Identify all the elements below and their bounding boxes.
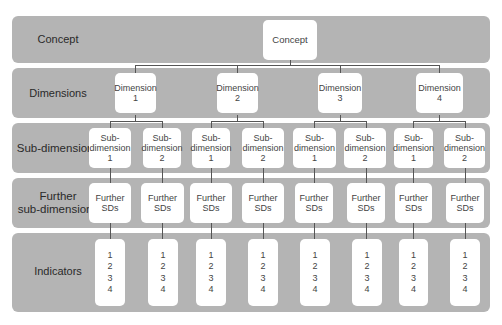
connector	[211, 121, 263, 122]
further-sd-line: SDs	[456, 203, 473, 213]
indicator-item: 4	[160, 284, 165, 296]
indicator-box: 1 2 3 4	[399, 239, 428, 306]
indicator-item: 4	[208, 284, 213, 296]
subdimension-line: Sub-	[152, 133, 171, 143]
dimension-box: Dimension 4	[416, 73, 463, 113]
subdimension-box: Sub- dimension 1	[89, 128, 131, 168]
subdimension-line: Sub-	[404, 133, 423, 143]
indicator-item: 3	[160, 273, 165, 285]
indicator-item: 4	[411, 284, 416, 296]
band-label-dimensions: Dimensions	[12, 87, 104, 100]
dimension-box: Dimension 1	[115, 73, 156, 113]
concept-box: Concept	[263, 20, 317, 60]
subdimension-box: Sub- dimension 1	[293, 128, 336, 168]
subdimension-line: dimension	[393, 143, 434, 153]
dimension-label: Dimension	[114, 83, 157, 93]
connector	[340, 65, 341, 73]
further-sd-line: Further	[196, 193, 225, 203]
connector	[237, 65, 238, 73]
indicator-item: 3	[260, 273, 265, 285]
indicator-item: 3	[208, 273, 213, 285]
subdimension-line: dimension	[294, 143, 335, 153]
indicator-item: 1	[312, 250, 317, 262]
further-sd-line: Further	[450, 193, 479, 203]
dimension-number: 3	[337, 93, 342, 103]
indicator-item: 4	[107, 284, 112, 296]
indicator-item: 1	[260, 250, 265, 262]
indicator-item: 1	[160, 250, 165, 262]
further-sd-box: Further SDs	[295, 183, 333, 223]
dimension-label: Dimension	[418, 83, 461, 93]
subdimension-line: dimension	[242, 143, 283, 153]
indicator-item: 2	[107, 261, 112, 273]
further-sd-box: Further SDs	[347, 183, 385, 223]
subdimension-number: 2	[260, 153, 265, 163]
further-sd-line: Further	[248, 193, 277, 203]
dimension-number: 4	[437, 93, 442, 103]
indicator-box: 1 2 3 4	[300, 239, 330, 306]
further-sd-box: Further SDs	[242, 183, 284, 223]
indicator-box: 1 2 3 4	[248, 239, 278, 306]
subdimension-line: Sub-	[455, 133, 474, 143]
indicator-box: 1 2 3 4	[148, 239, 178, 306]
concept-box-label: Concept	[272, 35, 307, 45]
subdimension-line: dimension	[89, 143, 130, 153]
connector	[314, 121, 366, 122]
band-label-indicators: Indicators	[12, 265, 104, 278]
connector	[135, 65, 136, 73]
indicator-item: 1	[411, 250, 416, 262]
connector	[413, 121, 465, 122]
subdimension-line: Sub-	[253, 133, 272, 143]
further-sd-line: Further	[399, 193, 428, 203]
further-sd-box: Further SDs	[190, 183, 232, 223]
subdimension-number: 1	[411, 153, 416, 163]
indicator-box: 1 2 3 4	[450, 239, 480, 306]
connector	[110, 121, 162, 122]
indicator-box: 1 2 3 4	[196, 239, 226, 306]
further-sd-line: SDs	[154, 203, 171, 213]
subdimension-line: Sub-	[201, 133, 220, 143]
further-sd-line: SDs	[305, 203, 322, 213]
indicator-item: 2	[462, 261, 467, 273]
subdimension-number: 1	[208, 153, 213, 163]
subdimension-box: Sub- dimension 2	[242, 128, 284, 168]
further-sd-line: SDs	[101, 203, 118, 213]
further-sd-box: Further SDs	[446, 183, 484, 223]
subdimension-line: Sub-	[100, 133, 119, 143]
indicator-item: 2	[160, 261, 165, 273]
dimension-label: Dimension	[319, 83, 362, 93]
subdimension-line: dimension	[190, 143, 231, 153]
subdimension-number: 1	[107, 153, 112, 163]
indicator-item: 3	[312, 273, 317, 285]
dimension-box: Dimension 2	[217, 73, 258, 113]
subdimension-number: 1	[312, 153, 317, 163]
subdimension-line: dimension	[444, 143, 485, 153]
band-label-concept: Concept	[12, 33, 104, 46]
subdimension-box: Sub- dimension 2	[444, 128, 485, 168]
connector	[135, 65, 440, 66]
subdimension-line: dimension	[141, 143, 182, 153]
subdimension-box: Sub- dimension 1	[192, 128, 230, 168]
dimension-label: Dimension	[216, 83, 259, 93]
subdimension-number: 2	[362, 153, 367, 163]
indicator-item: 2	[260, 261, 265, 273]
further-sd-box: Further SDs	[141, 183, 184, 223]
indicator-item: 1	[208, 250, 213, 262]
indicator-box: 1 2 3 4	[352, 239, 382, 306]
further-sd-line: Further	[95, 193, 124, 203]
further-sd-line: SDs	[405, 203, 422, 213]
indicator-item: 3	[411, 273, 416, 285]
subdimension-line: dimension	[344, 143, 385, 153]
indicator-item: 3	[364, 273, 369, 285]
indicator-item: 3	[462, 273, 467, 285]
dimension-number: 2	[235, 93, 240, 103]
subdimension-line: Sub-	[305, 133, 324, 143]
indicator-item: 4	[364, 284, 369, 296]
subdimension-box: Sub- dimension 2	[344, 128, 386, 168]
indicator-item: 3	[107, 273, 112, 285]
subdimension-number: 2	[159, 153, 164, 163]
connector	[439, 65, 440, 73]
indicator-item: 2	[364, 261, 369, 273]
subdimension-number: 2	[462, 153, 467, 163]
indicator-item: 1	[107, 250, 112, 262]
